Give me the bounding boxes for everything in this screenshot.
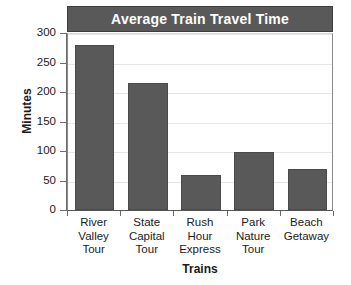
y-axis-tick-label: 250	[16, 57, 56, 69]
y-axis-tick	[60, 63, 67, 64]
bar-chart: Average Train Travel Time 05010015020025…	[0, 0, 351, 285]
x-axis-label-line: Getaway	[278, 230, 335, 244]
y-axis-tick-label: 50	[16, 175, 56, 187]
y-axis-tick-label: 0	[16, 204, 56, 216]
x-axis-label-line: Nature	[225, 230, 282, 244]
x-axis-label: ParkNatureTour	[225, 216, 282, 257]
x-axis-label-line: Beach	[278, 216, 335, 230]
x-axis-label: BeachGetaway	[278, 216, 335, 243]
chart-title: Average Train Travel Time	[111, 11, 289, 27]
x-axis-label: RushHourExpress	[171, 216, 228, 257]
y-axis-title: Minutes	[20, 76, 34, 146]
y-axis-tick	[60, 122, 67, 123]
y-axis-tick	[60, 151, 67, 152]
x-axis-label-line: Park	[225, 216, 282, 230]
bars-layer	[68, 34, 332, 210]
x-axis-label: RiverValleyTour	[65, 216, 122, 257]
y-axis-tick	[60, 210, 67, 211]
bar	[288, 169, 328, 210]
x-axis-label-line: Valley	[65, 230, 122, 244]
y-axis-tick	[60, 181, 67, 182]
x-axis-label-line: Rush	[171, 216, 228, 230]
plot-area	[67, 33, 333, 211]
bar	[128, 83, 168, 210]
bar	[75, 45, 115, 210]
bar	[181, 175, 221, 210]
x-axis-label-line: Express	[171, 243, 228, 257]
y-axis-tick-label: 100	[16, 145, 56, 157]
x-axis-label-line: Tour	[225, 243, 282, 257]
x-axis-labels: RiverValleyTourStateCapitalTourRushHourE…	[67, 216, 333, 264]
x-axis-label: StateCapitalTour	[118, 216, 175, 257]
y-axis-tick-label: 300	[16, 27, 56, 39]
x-axis-label-line: State	[118, 216, 175, 230]
x-axis-label-line: River	[65, 216, 122, 230]
x-axis-label-line: Capital	[118, 230, 175, 244]
x-axis-label-line: Tour	[118, 243, 175, 257]
y-axis-tick	[60, 33, 67, 34]
bar	[234, 152, 274, 210]
y-axis-tick	[60, 92, 67, 93]
x-axis-title: Trains	[67, 262, 333, 276]
x-axis-label-line: Hour	[171, 230, 228, 244]
chart-title-banner: Average Train Travel Time	[67, 6, 333, 32]
x-axis-label-line: Tour	[65, 243, 122, 257]
